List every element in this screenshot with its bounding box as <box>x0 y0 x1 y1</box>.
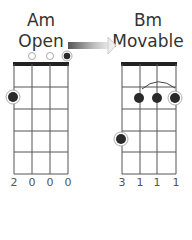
bm-chord-diagram <box>114 62 182 174</box>
finger-dot-icon <box>8 92 18 102</box>
open-string-icon <box>29 53 36 60</box>
fret-label: 1 <box>151 176 163 189</box>
finger-dot-icon <box>116 134 126 144</box>
open-string-icon <box>47 53 54 60</box>
fret-label: 3 <box>116 176 128 189</box>
barre-arc-icon <box>142 82 175 89</box>
finger-dot-icon <box>170 93 180 103</box>
fret-label: 1 <box>170 176 182 189</box>
am-chord-diagram <box>6 51 72 174</box>
fret-label: 0 <box>26 176 38 189</box>
gradient-arrow-right-icon <box>68 37 116 54</box>
fret-label: 0 <box>44 176 56 189</box>
fret-label: 1 <box>134 176 146 189</box>
finger-dot-icon <box>152 93 162 103</box>
fret-label: 0 <box>62 176 74 189</box>
fret-label: 2 <box>8 176 20 189</box>
finger-dot-icon <box>64 53 71 60</box>
finger-dot-icon <box>134 93 144 103</box>
nut <box>13 62 69 66</box>
nut <box>121 62 177 66</box>
